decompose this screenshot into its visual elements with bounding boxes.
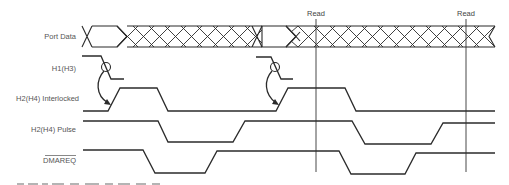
- h2-interlocked-waveform: [83, 88, 495, 111]
- port-data-invalid-1: [117, 26, 262, 47]
- label-h2-interlocked: H2(H4) Interlocked: [16, 94, 79, 103]
- h2-pulse-waveform: [83, 121, 495, 144]
- label-h2-pulse: H2(H4) Pulse: [31, 125, 76, 134]
- port-data-invalid-2: [286, 26, 495, 47]
- label-dmareq: DMAREQ: [43, 156, 76, 165]
- port-data-bus: [82, 26, 495, 47]
- figure-caption-partial: [17, 183, 160, 185]
- read-label-2: Read: [457, 9, 475, 18]
- h1-waveform: [82, 56, 293, 79]
- read-marker-1: Read: [307, 9, 325, 172]
- label-h1: H1(H3): [52, 64, 77, 73]
- dmareq-waveform: [83, 150, 495, 174]
- read-label-1: Read: [307, 9, 325, 18]
- label-port-data: Port Data: [44, 32, 77, 41]
- timing-diagram: Port Data H1(H3) H2(H4) Interlocked H2(H…: [0, 0, 509, 185]
